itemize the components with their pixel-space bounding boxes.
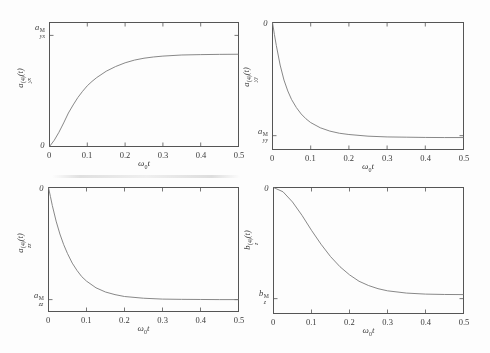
plot-area-b-z xyxy=(273,187,464,314)
math-base: a xyxy=(258,126,262,136)
x-tick-label: 0.2 xyxy=(120,151,131,160)
y-tick-label-aM-zz: aMzz xyxy=(34,291,44,308)
math-base: 0 xyxy=(264,183,268,193)
x-tick-label: 0.1 xyxy=(81,316,92,325)
x-tick-label: 0.3 xyxy=(382,154,393,163)
y-axis-label-a-yx: a(4)yx(t) xyxy=(16,68,33,88)
x-tick-label: 0 xyxy=(47,151,51,160)
x-axis-label: ω0t xyxy=(138,159,150,170)
supsub: (4)zz xyxy=(21,241,33,248)
x-tick-label: 0.2 xyxy=(343,154,354,163)
x-tick-label: 0.3 xyxy=(382,318,393,327)
x-tick-label: 0.3 xyxy=(157,316,168,325)
math-base: a xyxy=(15,249,25,253)
math-base: a xyxy=(241,83,251,87)
y-tick-label-aM-yx: aMyx xyxy=(35,23,45,40)
math-base: 0 xyxy=(40,140,44,150)
y-tick-label-zero: 0 xyxy=(264,184,269,193)
y-tick-label-aM-yy: aMyy xyxy=(258,127,268,144)
x-tick-label: 0.2 xyxy=(119,316,130,325)
x-tick-label: 0 xyxy=(271,318,275,327)
x-tick-label: 0.5 xyxy=(459,318,470,327)
y-axis-label-a-yy: a(4)yy(t) xyxy=(242,67,259,87)
figure: a(4)yx(t) aMyx 0 0 0.1 0.2 0.3 0.4 0.5 ω… xyxy=(0,0,490,353)
plot-area-a-zz xyxy=(48,187,239,312)
y-tick-label-zero: 0 xyxy=(40,141,45,150)
x-tick-label: 0.1 xyxy=(82,151,93,160)
x-tick-label: 0.5 xyxy=(234,151,245,160)
x-tick-label: 0.1 xyxy=(306,318,317,327)
y-axis-label-a-zz: a(4)zz(t) xyxy=(16,233,33,253)
subplot-a-yx: a(4)yx(t) aMyx 0 0 0.1 0.2 0.3 0.4 0.5 ω… xyxy=(49,22,239,147)
supsub: Myy xyxy=(263,132,268,144)
x-tick-label: 0.4 xyxy=(420,318,431,327)
scan-artifact-smudge xyxy=(52,175,240,178)
math-base: b xyxy=(242,246,252,250)
y-axis-label-b-z: b(4)z(t) xyxy=(243,230,260,250)
supsub: Mzz xyxy=(39,296,44,308)
x-axis-label: ω0t xyxy=(363,326,375,337)
supsub: (4)z xyxy=(248,238,260,245)
math-base: a xyxy=(15,84,25,88)
x-tick-label: 0.4 xyxy=(196,151,207,160)
math-base: 0 xyxy=(263,18,267,28)
x-tick-label: 0.5 xyxy=(234,316,245,325)
x-tick-label: 0.5 xyxy=(459,154,470,163)
plot-area-a-yy xyxy=(272,22,464,150)
x-axis-label: ω0t xyxy=(138,324,150,335)
x-tick-label: 0.3 xyxy=(158,151,169,160)
math-base: b xyxy=(259,288,263,298)
x-tick-label: 0 xyxy=(46,316,50,325)
x-tick-label: 0 xyxy=(270,154,274,163)
x-tick-label: 0.2 xyxy=(344,318,355,327)
subplot-b-z: b(4)z(t) 0 bMz 0 0.1 0.2 0.3 0.4 0.5 ω0t xyxy=(273,187,464,314)
subplot-a-yy: a(4)yy(t) 0 aMyy 0 0.1 0.2 0.3 0.4 0.5 ω… xyxy=(272,22,464,150)
supsub: (4)yx xyxy=(21,76,33,83)
math-base: 0 xyxy=(39,183,43,193)
supsub: (4)yy xyxy=(247,75,259,82)
supsub: Myx xyxy=(40,28,45,40)
y-tick-label-zero: 0 xyxy=(263,19,268,28)
x-tick-label: 0.4 xyxy=(420,154,431,163)
subplot-a-zz: a(4)zz(t) 0 aMzz 0 0.1 0.2 0.3 0.4 0.5 ω… xyxy=(48,187,239,312)
supsub: Mz xyxy=(264,294,269,306)
y-tick-label-zero: 0 xyxy=(39,184,44,193)
x-tick-label: 0.1 xyxy=(305,154,316,163)
x-tick-label: 0.4 xyxy=(195,316,206,325)
math-base: a xyxy=(34,290,38,300)
x-axis-label: ω0t xyxy=(362,162,374,173)
math-base: a xyxy=(35,22,39,32)
y-tick-label-bM-z: bMz xyxy=(259,289,269,306)
plot-area-a-yx xyxy=(49,22,239,147)
